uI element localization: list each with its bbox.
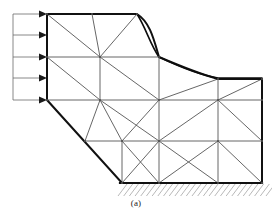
- mesh-edge: [85, 100, 100, 141]
- hatch-line: [175, 184, 184, 196]
- hatch-line: [181, 184, 190, 196]
- mesh-node: [46, 13, 48, 15]
- hatch-line: [238, 184, 247, 196]
- mesh-node: [261, 182, 263, 184]
- hatch-line: [260, 184, 269, 196]
- hatch-line: [124, 184, 133, 196]
- hatch-line: [198, 184, 207, 196]
- mesh-edge: [100, 57, 159, 100]
- mesh-node: [158, 140, 160, 142]
- mesh-node: [158, 56, 160, 58]
- hatch-line: [215, 184, 224, 196]
- hatch-line: [203, 184, 212, 196]
- mesh-node: [261, 99, 263, 101]
- hatch-line: [209, 184, 218, 196]
- mesh-edge: [218, 100, 262, 141]
- mesh-node: [261, 78, 263, 80]
- hatch-line: [129, 184, 138, 196]
- mesh-node: [217, 99, 219, 101]
- mesh-node: [158, 99, 160, 101]
- mesh-edge: [92, 14, 100, 57]
- mesh-node: [99, 56, 101, 58]
- load-arrow-head: [39, 31, 47, 38]
- hatch-line: [169, 184, 178, 196]
- hatch-line: [220, 184, 229, 196]
- hatch-line: [243, 184, 252, 196]
- mesh-node: [136, 13, 138, 15]
- mesh-node: [217, 182, 219, 184]
- hatch-line: [152, 184, 161, 196]
- mesh-node: [46, 56, 48, 58]
- ground-hatching: [118, 184, 272, 196]
- finite-element-mesh-diagram: [0, 0, 272, 222]
- mesh-node: [217, 78, 219, 80]
- hatch-line: [232, 184, 241, 196]
- hatch-line: [118, 184, 127, 196]
- mesh-edge: [100, 100, 122, 141]
- mesh-node: [99, 99, 101, 101]
- hatch-line: [146, 184, 155, 196]
- hatch-line: [226, 184, 235, 196]
- mesh-nodes: [46, 13, 263, 184]
- mesh-edge: [218, 79, 262, 100]
- mesh-edge: [100, 14, 137, 57]
- hatch-line: [249, 184, 258, 196]
- mesh-node: [46, 99, 48, 101]
- mesh-edge: [122, 100, 159, 141]
- mesh-edge: [100, 100, 159, 141]
- mesh-edge: [47, 14, 100, 57]
- load-arrow-head: [39, 74, 47, 81]
- mesh-node: [158, 182, 160, 184]
- mesh-edge: [218, 141, 262, 183]
- mesh-node: [91, 13, 93, 15]
- mesh-edge: [47, 57, 100, 100]
- mesh-node: [261, 140, 263, 142]
- mesh-edge: [159, 100, 218, 141]
- mesh-node: [121, 182, 123, 184]
- figure-caption: (a): [0, 198, 272, 208]
- figure-container: (a): [0, 0, 272, 222]
- body-boundary-outline: [47, 14, 262, 183]
- load-arrow-head: [39, 96, 47, 103]
- mesh-node: [217, 140, 219, 142]
- load-arrow-head: [39, 53, 47, 60]
- hatch-line: [266, 184, 272, 196]
- load-arrow-head: [39, 10, 47, 17]
- hatch-line: [164, 184, 173, 196]
- hatch-line: [141, 184, 150, 196]
- mesh-node: [121, 140, 123, 142]
- mesh-node: [84, 140, 86, 142]
- hatch-line: [192, 184, 201, 196]
- hatch-line: [158, 184, 167, 196]
- hatch-line: [186, 184, 195, 196]
- hatch-line: [135, 184, 144, 196]
- hatch-line: [255, 184, 264, 196]
- distributed-load-arrows: [13, 10, 47, 103]
- mesh-edge: [159, 79, 218, 100]
